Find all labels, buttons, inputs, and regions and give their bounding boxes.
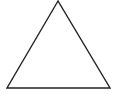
triangle-diagram [0,0,120,98]
triangle-shape [7,1,110,88]
